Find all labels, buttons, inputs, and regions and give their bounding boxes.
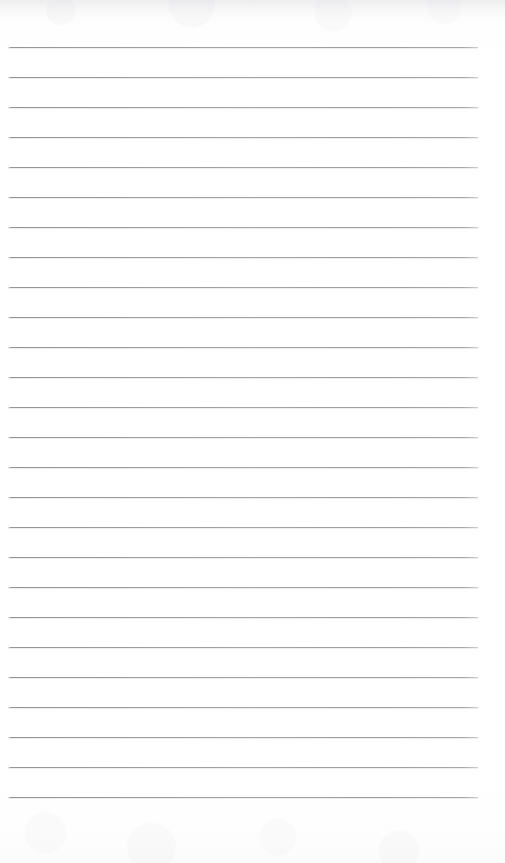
writing-area[interactable] [8,47,478,815]
notepad-page [0,0,505,863]
